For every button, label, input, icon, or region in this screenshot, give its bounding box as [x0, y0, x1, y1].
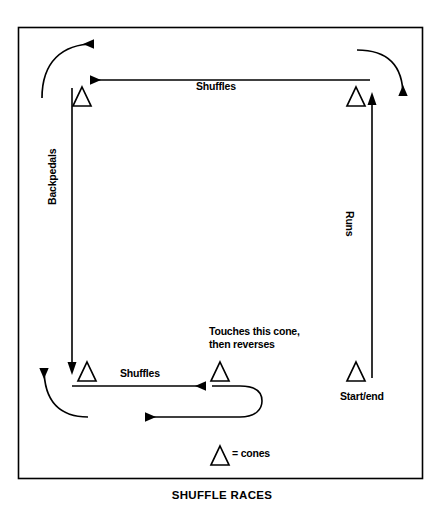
curve-arrow-top-right: [357, 50, 403, 96]
curve-arrow-top-left: [42, 44, 94, 98]
label-touches-line1: Touches this cone,: [209, 325, 300, 337]
label-start-end: Start/end: [340, 390, 384, 403]
cone-bottom-right: [347, 362, 365, 381]
cone-bottom-left: [78, 362, 96, 381]
path-backpedals-left: [68, 88, 77, 375]
path-reverse-loop: [145, 386, 262, 417]
path-runs-right: [368, 92, 377, 378]
arrow-up-runs: [368, 92, 377, 105]
label-runs: Runs: [343, 211, 356, 236]
arrow-down-backpedals: [68, 362, 77, 375]
label-legend-cones: = cones: [232, 447, 270, 460]
cone-top-right: [347, 87, 365, 106]
label-backpedals: Backpedals: [46, 149, 59, 205]
label-touches-this-cone: Touches this cone,then reverses: [209, 325, 300, 351]
label-shuffles-top: Shuffles: [196, 80, 236, 93]
diagram-canvas: [0, 0, 444, 518]
label-touches-line2: then reverses: [209, 338, 300, 351]
cone-top-left: [73, 87, 91, 106]
figure-title: SHUFFLE RACES: [0, 489, 444, 501]
cone-bottom-middle: [211, 362, 229, 381]
diagram-border: [19, 28, 423, 479]
label-shuffles-bottom: Shuffles: [120, 367, 160, 380]
shuffle-races-diagram: Shuffles Shuffles Backpedals Runs Touche…: [0, 0, 444, 518]
cone-legend-symbol: [211, 446, 229, 465]
